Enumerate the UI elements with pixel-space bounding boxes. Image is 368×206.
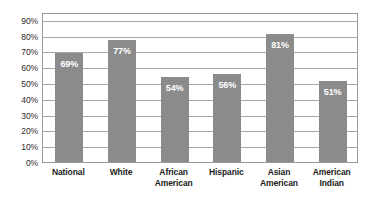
bar-slot: 77%	[108, 14, 136, 162]
bar[interactable]: 56%	[213, 74, 241, 162]
gridline	[43, 116, 357, 117]
gridline	[43, 131, 357, 132]
bar[interactable]: 54%	[161, 77, 189, 162]
x-tick-label-line: African	[147, 167, 200, 178]
x-tick-label-line: American	[147, 178, 200, 189]
gridline	[43, 52, 357, 53]
x-tick-label: Hispanic	[200, 167, 253, 178]
bar[interactable]: 81%	[266, 34, 294, 162]
x-tick-label: National	[42, 167, 95, 178]
x-tick-label-line: Hispanic	[200, 167, 253, 178]
y-tick-label: 30%	[0, 111, 38, 120]
y-tick-label: 0%	[0, 159, 38, 168]
x-axis: NationalWhiteAfricanAmericanHispanicAsia…	[42, 167, 358, 203]
x-tick-label-line: American	[305, 167, 358, 178]
x-tick-label: White	[95, 167, 148, 178]
gridline	[43, 147, 357, 148]
plot-area: 69%77%54%56%81%51%	[42, 13, 358, 163]
x-tick-label-line: National	[42, 167, 95, 178]
y-tick-label: 20%	[0, 127, 38, 136]
x-tick-label: AfricanAmerican	[147, 167, 200, 189]
bar[interactable]: 77%	[108, 40, 136, 162]
x-tick-label-line: Asian	[253, 167, 306, 178]
y-tick-label: 90%	[0, 17, 38, 26]
x-tick-label-line: White	[95, 167, 148, 178]
bar-value-label: 81%	[266, 41, 294, 50]
y-tick-label: 50%	[0, 80, 38, 89]
x-tick-label-line: Indian	[305, 178, 358, 189]
x-tick-label-line: American	[253, 178, 306, 189]
bar-slot: 51%	[319, 14, 347, 162]
gridline	[43, 100, 357, 101]
gridline	[43, 68, 357, 69]
y-tick-label: 40%	[0, 96, 38, 105]
y-tick-label: 80%	[0, 32, 38, 41]
bar-value-label: 77%	[108, 47, 136, 56]
bar-chart: 0%10%20%30%40%50%60%70%80%90% 69%77%54%5…	[0, 0, 368, 206]
bar-slot: 54%	[161, 14, 189, 162]
bar-value-label: 54%	[161, 84, 189, 93]
gridline	[43, 21, 357, 22]
bar-slot: 81%	[266, 14, 294, 162]
y-tick-label: 60%	[0, 64, 38, 73]
gridline	[43, 84, 357, 85]
y-tick-label: 10%	[0, 143, 38, 152]
bar-slot: 56%	[213, 14, 241, 162]
bar[interactable]: 69%	[55, 53, 83, 162]
bar-value-label: 69%	[55, 60, 83, 69]
gridline	[43, 37, 357, 38]
bar-value-label: 51%	[319, 88, 347, 97]
bar[interactable]: 51%	[319, 81, 347, 162]
bar-slot: 69%	[55, 14, 83, 162]
x-tick-label: AsianAmerican	[253, 167, 306, 189]
y-tick-label: 70%	[0, 48, 38, 57]
x-tick-label: AmericanIndian	[305, 167, 358, 189]
y-axis: 0%10%20%30%40%50%60%70%80%90%	[0, 13, 38, 163]
bar-value-label: 56%	[213, 81, 241, 90]
